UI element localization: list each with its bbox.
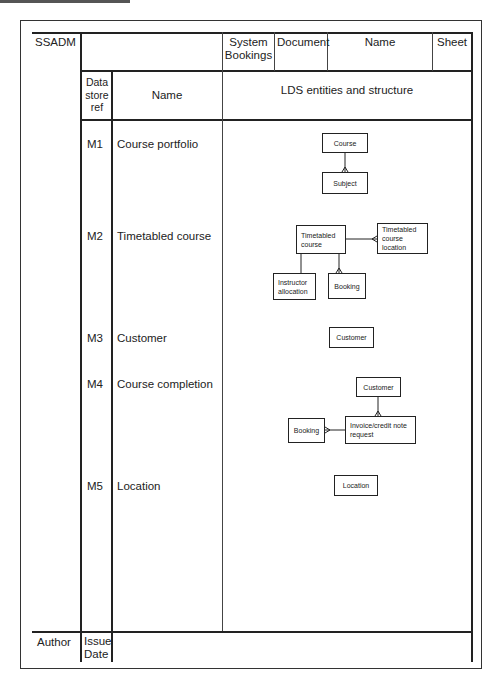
- entity-location: Location: [334, 475, 378, 496]
- entity-booking: Booking: [288, 418, 325, 443]
- entity-course: Course: [322, 133, 368, 153]
- entity-subject: Subject: [322, 172, 368, 194]
- entity-customer: Customer: [356, 377, 401, 397]
- issue-label: Issue: [84, 635, 112, 647]
- issue-date-label: Issue Date: [84, 635, 112, 661]
- entity-instructor-allocation: Instructor allocation: [273, 273, 316, 300]
- entity-customer: Customer: [329, 327, 374, 348]
- lds-relationship-lines: [0, 0, 497, 683]
- date-label: Date: [84, 648, 108, 660]
- entity-invoice-credit-note-request: Invoice/credit note request: [345, 416, 416, 444]
- entity-booking: Booking: [328, 273, 366, 299]
- entity-timetabled-course-location: Timetabled course location: [377, 223, 428, 254]
- entity-timetabled-course: Timetabled course: [296, 225, 346, 254]
- author-label: Author: [37, 636, 71, 649]
